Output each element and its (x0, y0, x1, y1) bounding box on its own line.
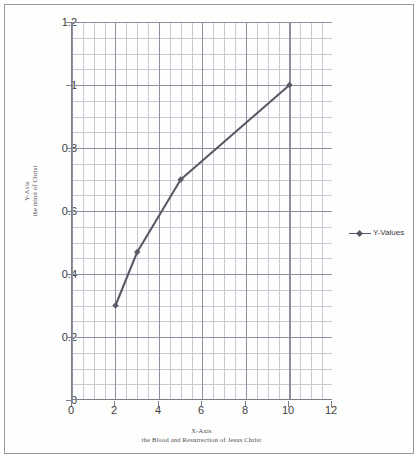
x-tick-label: 8 (230, 405, 260, 416)
x-tick-label: 0 (56, 405, 86, 416)
y-axis-title-line1: Y-Axis (23, 131, 31, 251)
x-tick-label: 6 (186, 405, 216, 416)
x-axis-title-line1: X-Axis (61, 427, 342, 436)
series-line-y-values (116, 85, 290, 306)
x-axis-title-line2: the Blood and Resurrection of Jesus Chri… (61, 436, 342, 445)
x-tick-label: 12 (316, 405, 346, 416)
legend[interactable]: Y-Values (349, 227, 404, 239)
x-tick-label: 2 (99, 405, 129, 416)
x-axis-title: X-Axis the Blood and Resurrection of Jes… (61, 427, 342, 444)
series-plot (72, 22, 333, 400)
y-axis-title-line2: the mind of Christ (31, 131, 39, 251)
y-axis-title: Y-Axis the mind of Christ (23, 131, 39, 251)
legend-marker-icon (349, 227, 371, 239)
plot-area (71, 22, 332, 400)
x-tick-label: 4 (143, 405, 173, 416)
legend-entry-label: Y-Values (373, 228, 404, 238)
x-tick-label: 10 (273, 405, 303, 416)
data-point-marker (112, 302, 118, 308)
series-markers-y-values (112, 82, 292, 309)
chart-frame: 1.2 1 0.8 0.6 0.4 0.2 0 Y-Axis the mind … (4, 4, 414, 454)
